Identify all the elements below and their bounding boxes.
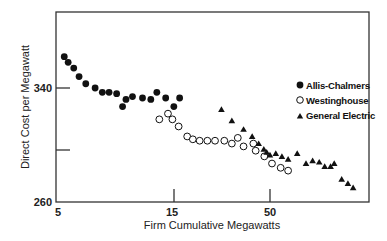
data-point-general-electric: [240, 126, 247, 132]
data-point-westinghouse: [240, 143, 247, 150]
data-point-allis-chalmers: [119, 103, 126, 110]
y-tick-label-260: 260: [34, 196, 52, 208]
data-point-westinghouse: [269, 160, 276, 167]
scatter-chart: 340 260 5 15 50 Firm Cumulative Megawatt…: [0, 0, 387, 241]
data-point-allis-chalmers: [123, 96, 130, 103]
data-point-general-electric: [294, 150, 301, 156]
svg-text:General Electric: General Electric: [306, 110, 375, 121]
data-point-allis-chalmers: [170, 103, 177, 110]
svg-text:Allis-Chalmers: Allis-Chalmers: [306, 80, 370, 91]
x-tick-label-50: 50: [264, 206, 276, 218]
y-tick-label-340: 340: [34, 82, 52, 94]
data-point-westinghouse: [156, 116, 163, 123]
data-point-allis-chalmers: [139, 95, 146, 102]
data-point-allis-chalmers: [147, 96, 154, 103]
data-point-allis-chalmers: [162, 95, 169, 102]
legend-item-general-electric: General Electric: [297, 110, 375, 121]
legend-item-westinghouse: Westinghouse: [297, 95, 369, 106]
data-point-allis-chalmers: [76, 73, 83, 80]
data-point-general-electric: [331, 160, 338, 166]
x-tick-label-15: 15: [166, 206, 178, 218]
data-point-general-electric: [285, 156, 292, 162]
data-point-general-electric: [345, 180, 352, 186]
data-point-allis-chalmers: [99, 89, 106, 96]
open-circle-icon: [297, 97, 304, 104]
data-point-westinghouse: [252, 147, 259, 154]
data-point-general-electric: [309, 157, 316, 163]
x-axis-title: Firm Cumulative Megawatts: [144, 219, 281, 231]
data-point-general-electric: [338, 176, 345, 182]
data-point-allis-chalmers: [82, 80, 89, 87]
data-point-allis-chalmers: [70, 65, 77, 72]
data-point-westinghouse: [169, 116, 176, 123]
data-point-general-electric: [249, 133, 256, 139]
data-point-westinghouse: [228, 140, 235, 147]
data-point-allis-chalmers: [176, 95, 183, 102]
data-point-westinghouse: [189, 136, 196, 143]
data-point-general-electric: [316, 159, 323, 165]
y-axis-title: Direct Cost per Megawatt: [19, 45, 31, 169]
y-tick-labels: 340 260: [34, 82, 52, 208]
data-point-westinghouse: [175, 123, 182, 130]
data-point-westinghouse: [277, 164, 284, 171]
data-point-general-electric: [279, 153, 286, 159]
data-point-westinghouse: [285, 167, 292, 174]
data-point-allis-chalmers: [61, 53, 68, 60]
data-point-westinghouse: [234, 134, 241, 141]
data-point-general-electric: [229, 118, 236, 124]
axis-ticks: [56, 88, 270, 202]
data-point-allis-chalmers: [129, 93, 136, 100]
data-point-allis-chalmers: [92, 85, 99, 92]
x-tick-label-5: 5: [55, 206, 61, 218]
plot-frame: [56, 12, 369, 202]
data-point-allis-chalmers: [65, 59, 72, 66]
data-point-general-electric: [272, 150, 279, 156]
filled-circle-icon: [297, 82, 304, 89]
data-point-general-electric: [218, 106, 225, 112]
data-points: [61, 53, 357, 190]
data-point-westinghouse: [196, 137, 203, 144]
data-point-allis-chalmers: [113, 90, 120, 97]
data-point-allis-chalmers: [106, 89, 113, 96]
x-tick-labels: 5 15 50: [55, 206, 276, 218]
svg-text:Westinghouse: Westinghouse: [306, 95, 368, 106]
data-point-westinghouse: [212, 137, 219, 144]
data-point-allis-chalmers: [153, 89, 160, 96]
data-point-general-electric: [321, 163, 328, 169]
data-point-westinghouse: [221, 137, 228, 144]
legend-item-allis-chalmers: Allis-Chalmers: [297, 80, 370, 91]
data-point-general-electric: [303, 160, 310, 166]
data-point-westinghouse: [165, 110, 172, 117]
data-point-westinghouse: [204, 137, 211, 144]
legend: Allis-Chalmers Westinghouse General Elec…: [297, 80, 376, 122]
filled-triangle-icon: [297, 113, 303, 119]
